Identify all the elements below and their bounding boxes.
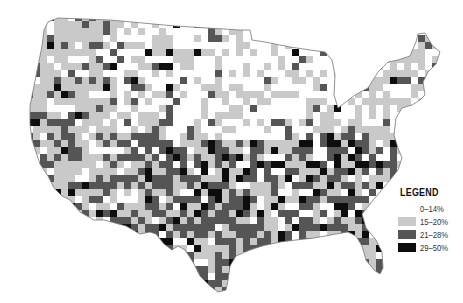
legend-swatch-dark-gray (398, 230, 416, 239)
legend-item-21-28: 21–28% (398, 229, 453, 240)
map-legend: LEGEND 0–14% 15–20% 21–28% 29–50% (398, 186, 460, 198)
legend-swatch-light-gray (398, 217, 416, 226)
us-county-map (0, 0, 463, 303)
legend-item-0-14: 0–14% (398, 203, 448, 214)
legend-swatch-white (398, 204, 416, 213)
legend-item-29-50: 29–50% (398, 242, 453, 253)
legend-title: LEGEND (400, 186, 451, 198)
legend-item-15-20: 15–20% (398, 216, 453, 227)
legend-swatch-black (398, 243, 416, 252)
